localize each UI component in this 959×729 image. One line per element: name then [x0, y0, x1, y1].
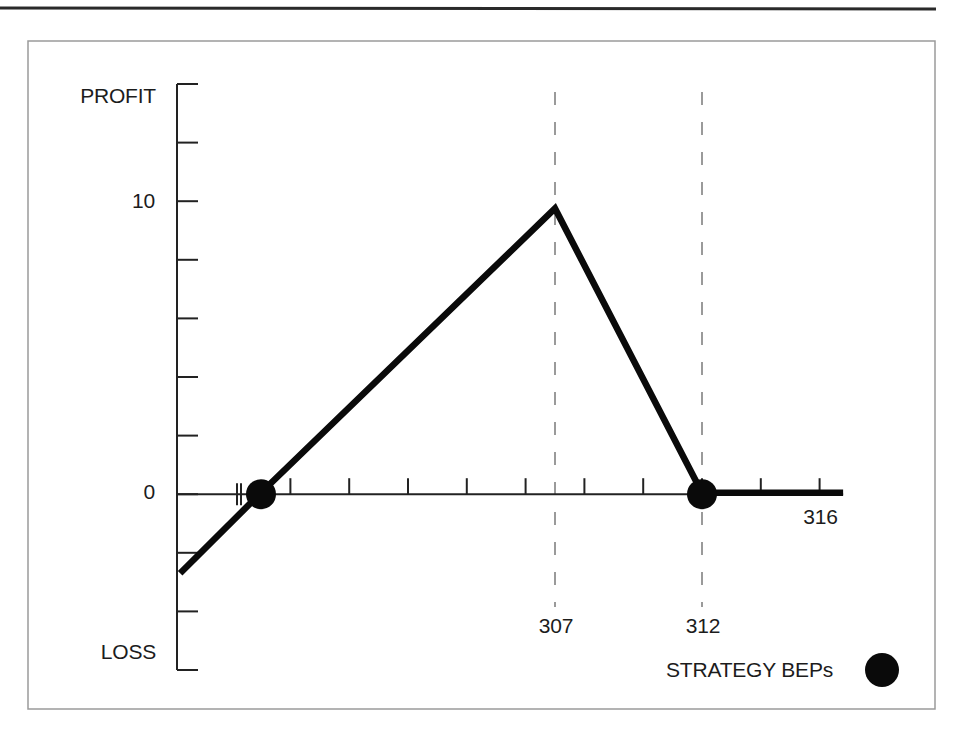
x-tick-label: 307	[539, 615, 573, 637]
x-tick-label: 312	[686, 615, 720, 637]
x-tick-label: 316	[803, 506, 837, 528]
chart-frame	[28, 41, 935, 709]
payoff-chart	[0, 0, 959, 729]
chart-page: PROFIT LOSS 10 0 307 312 316 STRATEGY BE…	[0, 0, 959, 729]
payoff-series	[180, 208, 843, 573]
y-tick-label: 0	[144, 481, 155, 503]
y-tick-label: 10	[132, 190, 155, 212]
top-rule	[0, 8, 936, 9]
y-axis-label-loss: LOSS	[101, 641, 156, 663]
breakeven-dot-icon	[687, 479, 717, 509]
payoff-line	[180, 208, 843, 573]
legend-marker-icon	[865, 653, 899, 687]
breakeven-dot-icon	[246, 479, 276, 509]
legend-label: STRATEGY BEPs	[666, 659, 833, 681]
y-axis	[177, 84, 198, 670]
y-axis-label-profit: PROFIT	[80, 85, 156, 107]
